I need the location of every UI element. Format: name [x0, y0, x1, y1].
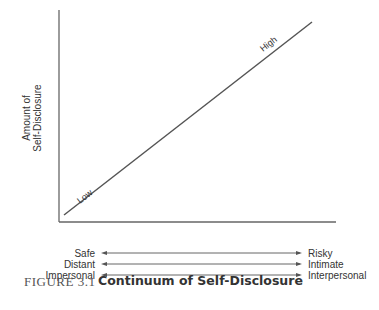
svg-text:Risky: Risky — [308, 248, 332, 259]
disclosure-line — [64, 22, 312, 215]
figure-number: FIGURE 3.1 — [24, 274, 95, 290]
self-disclosure-diagram: Amount of Self-Disclosure Low High Safe … — [0, 0, 379, 310]
continuum-row-1: Safe Risky — [74, 248, 332, 259]
low-label: Low — [75, 187, 95, 205]
svg-text:Safe: Safe — [74, 248, 95, 259]
figure-title: Continuum of Self-Disclosure — [98, 273, 303, 288]
continuum-row-2: Distant Intimate — [64, 259, 344, 270]
svg-text:Intimate: Intimate — [308, 259, 344, 270]
svg-text:Interpersonal: Interpersonal — [308, 270, 366, 281]
svg-text:Amount of: Amount of — [21, 95, 32, 141]
svg-text:Distant: Distant — [64, 259, 95, 270]
y-axis-label: Amount of Self-Disclosure — [21, 84, 43, 152]
svg-text:Self-Disclosure: Self-Disclosure — [32, 84, 43, 152]
